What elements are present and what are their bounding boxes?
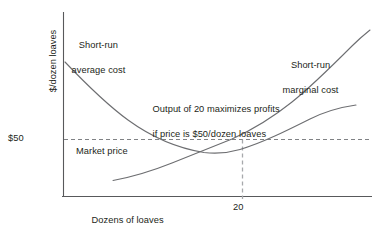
x-axis-title-line1: Dozens of loaves	[92, 215, 164, 225]
marginal-cost-curve-label: Short-run marginal cost	[272, 46, 338, 109]
economics-cost-curve-chart: $/dozen loaves $50 Short-run average cos…	[0, 0, 377, 239]
annotation-line2: if price is $50/dozen loaves	[153, 129, 267, 139]
y-axis-title: $/dozen loaves	[48, 11, 58, 111]
marginal-cost-label-line2: marginal cost	[283, 85, 339, 95]
average-cost-curve-label: Short-run average cost	[61, 26, 125, 89]
x-axis-tick-label-20: 20	[233, 201, 243, 214]
annotation-line1: Output of 20 maximizes profits	[153, 104, 280, 114]
market-price-label: Market price	[76, 145, 128, 158]
marginal-cost-label-line1: Short-run	[291, 60, 330, 70]
y-axis-tick-label-50: $50	[8, 132, 24, 145]
profit-maximizing-annotation: Output of 20 maximizes profits if price …	[142, 90, 280, 153]
x-axis-title: Dozens of loaves of bread/day	[81, 201, 164, 239]
average-cost-label-line1: Short-run	[79, 40, 118, 50]
average-cost-label-line2: average cost	[72, 65, 126, 75]
